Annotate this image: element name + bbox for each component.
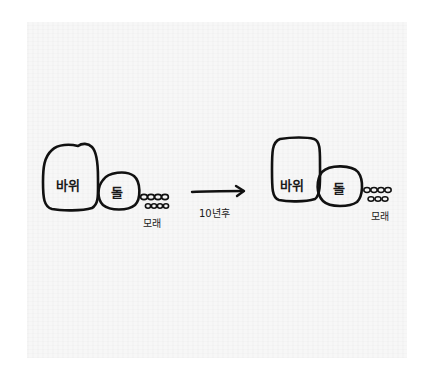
stone-before-label: 돌 <box>111 185 123 200</box>
right-arrow-icon <box>192 186 244 196</box>
stone-after-label: 돌 <box>333 181 345 196</box>
sand-after-label: 모래 <box>371 211 389 222</box>
sand-before-label: 모래 <box>143 218 161 229</box>
sand-after-grains <box>364 188 391 202</box>
rock-after-label: 바위 <box>280 178 304 193</box>
rock-before-label: 바위 <box>56 178 80 193</box>
sand-before-grains <box>141 194 169 208</box>
weathering-diagram: 바위 돌 모래 10년후 바위 돌 모래 <box>0 0 431 377</box>
time-label: 10년후 <box>199 208 230 219</box>
